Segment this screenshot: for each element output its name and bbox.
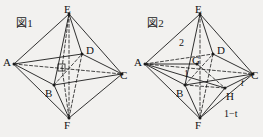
vertex-dot-B	[184, 84, 187, 87]
edge-D-E	[69, 14, 82, 54]
vertex-label-D: D	[86, 45, 94, 56]
edge-F-H	[200, 88, 225, 118]
vertex-label-E: E	[195, 4, 202, 15]
vertex-label-F: F	[195, 120, 201, 131]
measure-label-t: t	[241, 78, 244, 88]
vertex-label-A: A	[3, 57, 11, 68]
edge-B-F	[185, 85, 200, 118]
vertex-label-C: C	[120, 70, 127, 81]
vertex-label-A: A	[134, 57, 142, 68]
vertex-label-B: B	[45, 88, 52, 99]
vertex-label-G: G	[192, 55, 200, 66]
figure-1-caption: 図1	[16, 14, 33, 30]
figure-2-caption: 図2	[147, 14, 164, 30]
right-angle-mark	[58, 64, 65, 71]
edge-D-E	[200, 14, 213, 54]
vertex-label-C: C	[251, 70, 258, 81]
figure-sheet: 図1 E D A C B F	[0, 0, 263, 137]
measure-label-2: 2	[179, 38, 184, 48]
figure-1: 図1 E D A C B F	[0, 0, 131, 137]
vertex-label-B: B	[176, 88, 183, 99]
edge-A-D	[14, 54, 82, 64]
vertex-dot-A	[13, 63, 16, 66]
vertex-label-D: D	[217, 45, 225, 56]
edge-A-D-hidden	[145, 54, 213, 64]
vertex-label-F: F	[64, 120, 70, 131]
edge-B-E	[54, 14, 69, 85]
vertex-dot-D	[212, 53, 215, 56]
vertex-dot-D	[81, 53, 84, 56]
vertex-dot-B	[53, 84, 56, 87]
measure-label-1: 1	[184, 69, 189, 79]
vertex-label-E: E	[64, 4, 71, 15]
vertex-dot-A	[144, 63, 147, 66]
figure-2: 図2 E D A G C B H F 2 1 t 1−t	[131, 0, 262, 137]
measure-label-1-minus-t: 1−t	[224, 109, 237, 119]
vertex-label-H: H	[226, 91, 234, 102]
edge-G-H-hidden	[197, 64, 225, 88]
